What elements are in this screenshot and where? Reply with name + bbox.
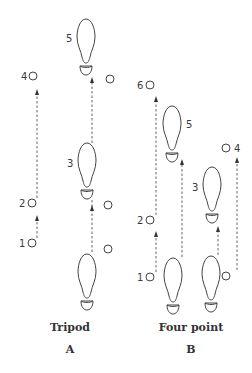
crutch-point-4	[29, 72, 37, 80]
arrow-up-icon	[180, 159, 184, 165]
step-label-2: 2	[19, 198, 25, 209]
step-label-5: 5	[186, 119, 192, 130]
arrow-up-icon	[90, 205, 94, 211]
footprint-icon	[202, 256, 220, 312]
panel-title: Tripod	[50, 321, 90, 334]
arrow-up-icon	[235, 157, 239, 163]
footprint-icon	[203, 167, 221, 223]
step-label-1: 1	[137, 272, 143, 283]
step-label-3: 3	[67, 158, 73, 169]
footprint-icon	[77, 19, 95, 75]
crutch-point-right	[104, 245, 112, 253]
crutch-point-1	[146, 273, 154, 281]
crutch-point-1	[28, 239, 36, 247]
crutch-point-2	[28, 199, 36, 207]
crutch-point-right	[104, 201, 112, 209]
arrow-up-icon	[154, 96, 158, 102]
step-label-2: 2	[137, 215, 143, 226]
panel-b-four-point: 6 2 1 4 5 3 Four point B	[137, 80, 240, 356]
footprint-icon	[164, 258, 182, 314]
arrow-up-icon	[90, 77, 94, 83]
step-label-5: 5	[66, 33, 72, 44]
panel-title: Four point	[159, 321, 224, 334]
footprint-icon	[78, 254, 96, 310]
crutch-point-right	[106, 75, 114, 83]
arrow-up-icon	[154, 231, 158, 237]
step-label-4: 4	[21, 71, 27, 82]
arrow-up-icon	[35, 89, 39, 95]
crutch-point-6	[146, 81, 154, 89]
footprint-icon	[78, 143, 96, 199]
step-label-3: 3	[192, 182, 198, 193]
crutch-point-4	[222, 144, 230, 152]
panel-letter: B	[186, 343, 195, 356]
gait-diagram: 4 2 1 5 3 Tripod A 6	[0, 0, 252, 373]
panel-a-tripod: 4 2 1 5 3 Tripod A	[19, 19, 114, 356]
step-label-4: 4	[234, 143, 240, 154]
footprint-icon	[163, 106, 181, 162]
step-label-6: 6	[137, 80, 143, 91]
step-label-1: 1	[19, 238, 25, 249]
arrow-up-icon	[35, 215, 39, 221]
arrow-up-icon	[216, 226, 220, 232]
crutch-point-right	[222, 272, 230, 280]
crutch-point-2	[146, 216, 154, 224]
panel-letter: A	[65, 343, 75, 356]
